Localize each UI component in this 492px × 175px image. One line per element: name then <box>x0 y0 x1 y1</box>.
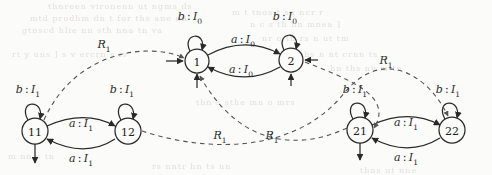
relation-label-r1-center-left: R1 <box>213 129 226 144</box>
edge-22-to-21 <box>372 138 440 148</box>
edge-label-loop-12: b : I1 <box>110 83 134 98</box>
state-node-label-21: 21 <box>353 124 367 137</box>
relation-12-to-22 <box>142 69 448 145</box>
edge-label-top-1to2: a : I0 <box>231 33 255 48</box>
edge-label-loop-1: b : I0 <box>178 10 202 25</box>
relation-label-r1-center-right: R1 <box>265 129 278 144</box>
edge-label-loop-2: b : I0 <box>273 10 297 25</box>
automaton-graph <box>0 0 492 175</box>
relation-label-r1-right: R1 <box>379 54 392 69</box>
state-node-label-2: 2 <box>288 54 295 67</box>
state-node-label-11: 11 <box>28 125 42 138</box>
edge-label-loop-22: b : I1 <box>436 83 460 98</box>
edge-label-bot-12to11: a : I1 <box>69 152 93 167</box>
state-node-label-22: 22 <box>445 124 459 137</box>
relation-label-r1-left: R1 <box>97 38 110 53</box>
state-node-label-12: 12 <box>121 125 135 138</box>
solid-transition-edges <box>25 35 457 163</box>
edge-12-to-11 <box>47 139 115 149</box>
diagram-canvas: thnreen vironenn ut ngms dsmtd prodhm dn… <box>0 0 492 175</box>
edge-label-bot-22to21: a : I1 <box>394 151 418 166</box>
state-node-label-1: 1 <box>194 55 201 68</box>
edge-label-loop-11: b : I1 <box>16 83 40 98</box>
edge-label-top-11to12: a : I1 <box>69 117 93 132</box>
edge-label-top-21to22: a : I1 <box>394 116 418 131</box>
edge-label-loop-21: b : I1 <box>343 83 367 98</box>
edge-label-bot-2to1: a : I0 <box>229 63 253 78</box>
